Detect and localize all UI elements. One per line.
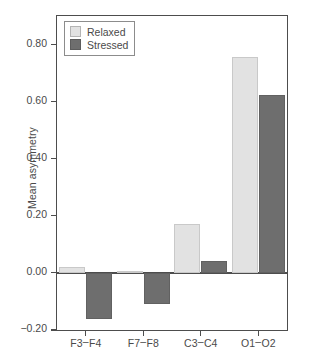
bar <box>117 271 143 273</box>
bar <box>174 224 200 273</box>
y-axis-tick: 0.40 <box>51 158 57 159</box>
bar <box>86 273 112 319</box>
y-axis-tick-label: 0.40 <box>27 151 47 163</box>
y-axis-tick-label: 0.00 <box>27 265 47 277</box>
bar <box>259 95 285 273</box>
bar <box>144 273 170 304</box>
y-axis-tick-label: −0.20 <box>20 322 47 334</box>
legend-label-relaxed: Relaxed <box>87 26 126 38</box>
bar <box>232 57 258 273</box>
chart-legend: Relaxed Stressed <box>64 21 135 56</box>
y-axis-tick-label: 0.20 <box>27 208 47 220</box>
legend-swatch-stressed-icon <box>70 39 81 50</box>
y-axis-tick: −0.20 <box>51 329 57 330</box>
x-axis-tick-label: O1–O2 <box>241 337 275 349</box>
y-axis-tick-label: 0.80 <box>27 37 47 49</box>
y-axis-tick: 0.60 <box>51 101 57 102</box>
y-axis-tick: 0.80 <box>51 44 57 45</box>
legend-label-stressed: Stressed <box>87 39 128 51</box>
y-axis-tick: 0.00 <box>51 272 57 273</box>
y-axis-tick-label: 0.60 <box>27 94 47 106</box>
legend-item-relaxed: Relaxed <box>70 25 128 38</box>
bar <box>201 261 227 272</box>
legend-swatch-relaxed-icon <box>70 26 81 37</box>
plot-area: 0.800.600.400.200.00−0.20 <box>56 15 288 331</box>
plot-inner: 0.800.600.400.200.00−0.20 <box>57 16 287 330</box>
bar <box>59 267 85 273</box>
x-axis-tick-label: F3–F4 <box>70 337 101 349</box>
x-axis-tick-label: C3–C4 <box>184 337 217 349</box>
x-axis-tick-label: F7–F8 <box>128 337 159 349</box>
y-axis-tick: 0.20 <box>51 215 57 216</box>
legend-item-stressed: Stressed <box>70 38 128 51</box>
chart-figure: Mean asymmetry 0.800.600.400.200.00−0.20… <box>0 0 311 364</box>
